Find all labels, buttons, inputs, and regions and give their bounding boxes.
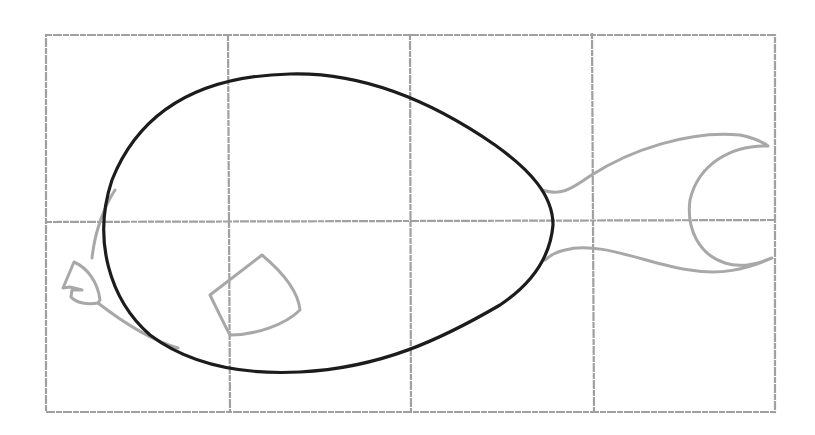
- grid-vertical-line-2: [410, 34, 411, 412]
- grid: [46, 33, 775, 412]
- mouth: [63, 262, 100, 304]
- tail-fin: [542, 134, 772, 272]
- fish-drawing: [0, 0, 815, 435]
- body-outline: [104, 74, 553, 373]
- grid-vertical-line-1: [228, 35, 230, 412]
- grid-vertical-line-3: [592, 33, 594, 411]
- pectoral-fin: [210, 255, 300, 335]
